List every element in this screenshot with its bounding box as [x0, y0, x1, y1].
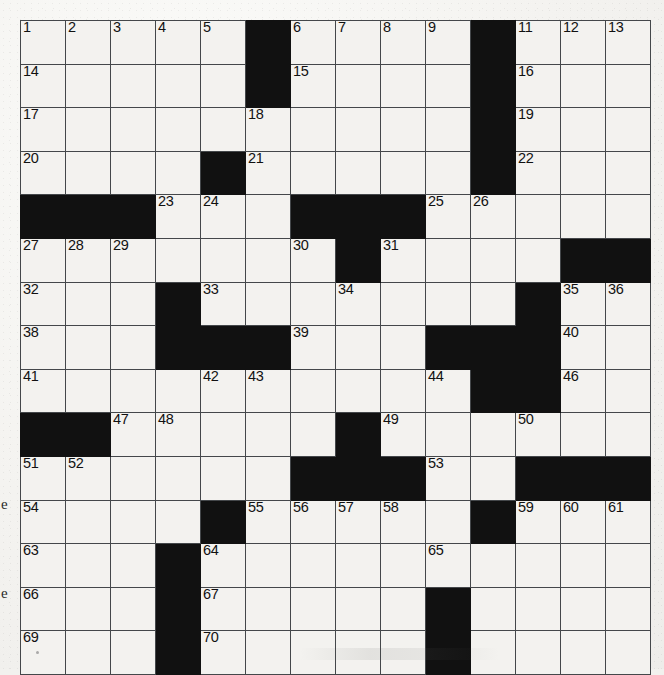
grid-cell[interactable]: 19: [516, 108, 561, 152]
grid-cell[interactable]: [291, 631, 336, 675]
grid-cell[interactable]: 55: [246, 500, 291, 544]
grid-cell[interactable]: [561, 631, 606, 675]
grid-cell[interactable]: 6: [291, 21, 336, 65]
grid-cell[interactable]: [606, 369, 651, 413]
grid-cell[interactable]: [561, 544, 606, 588]
grid-cell[interactable]: 35: [561, 282, 606, 326]
grid-cell[interactable]: [336, 369, 381, 413]
grid-cell[interactable]: [381, 151, 426, 195]
grid-cell[interactable]: 41: [21, 369, 66, 413]
grid-cell[interactable]: [606, 195, 651, 239]
grid-cell[interactable]: [201, 238, 246, 282]
grid-cell[interactable]: [516, 631, 561, 675]
grid-cell[interactable]: [66, 282, 111, 326]
grid-cell[interactable]: [246, 587, 291, 631]
grid-cell[interactable]: 25: [426, 195, 471, 239]
grid-cell[interactable]: [336, 544, 381, 588]
grid-cell[interactable]: 16: [516, 64, 561, 108]
grid-cell[interactable]: 34: [336, 282, 381, 326]
grid-cell[interactable]: [201, 64, 246, 108]
grid-cell[interactable]: [606, 631, 651, 675]
grid-cell[interactable]: [516, 195, 561, 239]
grid-cell[interactable]: [66, 151, 111, 195]
grid-cell[interactable]: [606, 413, 651, 457]
grid-cell[interactable]: [516, 238, 561, 282]
grid-cell[interactable]: 65: [426, 544, 471, 588]
grid-cell[interactable]: 54: [21, 500, 66, 544]
grid-cell[interactable]: [606, 108, 651, 152]
grid-cell[interactable]: [156, 64, 201, 108]
grid-cell[interactable]: 69: [21, 631, 66, 675]
grid-cell[interactable]: [66, 326, 111, 370]
grid-cell[interactable]: [66, 369, 111, 413]
grid-cell[interactable]: 39: [291, 326, 336, 370]
grid-cell[interactable]: [66, 544, 111, 588]
grid-cell[interactable]: 11: [516, 21, 561, 65]
grid-cell[interactable]: [561, 151, 606, 195]
grid-cell[interactable]: [111, 369, 156, 413]
grid-cell[interactable]: 3: [111, 21, 156, 65]
grid-cell[interactable]: [426, 151, 471, 195]
grid-cell[interactable]: [471, 631, 516, 675]
grid-cell[interactable]: 43: [246, 369, 291, 413]
grid-cell[interactable]: [516, 587, 561, 631]
grid-cell[interactable]: [381, 108, 426, 152]
grid-cell[interactable]: [426, 413, 471, 457]
grid-cell[interactable]: [561, 108, 606, 152]
grid-cell[interactable]: [336, 64, 381, 108]
grid-cell[interactable]: [246, 282, 291, 326]
grid-cell[interactable]: 23: [156, 195, 201, 239]
grid-cell[interactable]: [111, 587, 156, 631]
grid-cell[interactable]: [201, 108, 246, 152]
grid-cell[interactable]: 60: [561, 500, 606, 544]
grid-cell[interactable]: 9: [426, 21, 471, 65]
grid-cell[interactable]: [336, 151, 381, 195]
grid-cell[interactable]: [156, 500, 201, 544]
grid-cell[interactable]: [111, 64, 156, 108]
grid-cell[interactable]: 21: [246, 151, 291, 195]
grid-cell[interactable]: [291, 413, 336, 457]
grid-cell[interactable]: [246, 544, 291, 588]
grid-cell[interactable]: [561, 195, 606, 239]
grid-cell[interactable]: [246, 631, 291, 675]
grid-cell[interactable]: 36: [606, 282, 651, 326]
grid-cell[interactable]: [156, 456, 201, 500]
grid-cell[interactable]: [381, 631, 426, 675]
grid-cell[interactable]: 27: [21, 238, 66, 282]
grid-cell[interactable]: [66, 108, 111, 152]
grid-cell[interactable]: [66, 631, 111, 675]
grid-cell[interactable]: 18: [246, 108, 291, 152]
grid-cell[interactable]: 46: [561, 369, 606, 413]
grid-cell[interactable]: [471, 238, 516, 282]
grid-cell[interactable]: 17: [21, 108, 66, 152]
grid-cell[interactable]: 52: [66, 456, 111, 500]
grid-cell[interactable]: 64: [201, 544, 246, 588]
grid-cell[interactable]: 33: [201, 282, 246, 326]
grid-cell[interactable]: [426, 500, 471, 544]
grid-cell[interactable]: [471, 544, 516, 588]
grid-cell[interactable]: [336, 631, 381, 675]
grid-cell[interactable]: 59: [516, 500, 561, 544]
grid-cell[interactable]: [381, 326, 426, 370]
grid-cell[interactable]: 38: [21, 326, 66, 370]
grid-cell[interactable]: [156, 108, 201, 152]
grid-cell[interactable]: [111, 282, 156, 326]
grid-cell[interactable]: 29: [111, 238, 156, 282]
grid-cell[interactable]: [201, 413, 246, 457]
grid-cell[interactable]: [606, 326, 651, 370]
grid-cell[interactable]: [606, 544, 651, 588]
grid-cell[interactable]: [561, 413, 606, 457]
grid-cell[interactable]: [291, 544, 336, 588]
grid-cell[interactable]: 1: [21, 21, 66, 65]
grid-cell[interactable]: 30: [291, 238, 336, 282]
grid-cell[interactable]: 66: [21, 587, 66, 631]
grid-cell[interactable]: [156, 151, 201, 195]
grid-cell[interactable]: [471, 587, 516, 631]
grid-cell[interactable]: [291, 282, 336, 326]
grid-cell[interactable]: [426, 282, 471, 326]
grid-cell[interactable]: [156, 369, 201, 413]
grid-cell[interactable]: [246, 238, 291, 282]
grid-cell[interactable]: 56: [291, 500, 336, 544]
grid-cell[interactable]: [516, 544, 561, 588]
grid-cell[interactable]: [201, 456, 246, 500]
